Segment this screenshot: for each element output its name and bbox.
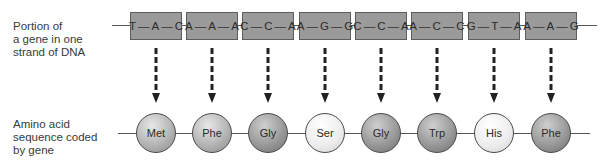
amino-acid-label: Met: [147, 127, 165, 139]
amino-acid-label: Phe: [541, 127, 561, 139]
bond-dash: —: [386, 20, 400, 32]
bond-dash: —: [273, 20, 287, 32]
nucleotide-base: G: [466, 20, 477, 32]
dashed-down-arrow-icon: [152, 48, 160, 104]
nucleotide-base: A: [513, 20, 523, 32]
bond-dash: —: [330, 20, 344, 32]
nucleotide-base: A: [184, 20, 194, 32]
nucleotide-base: A: [546, 20, 556, 32]
codon-box: A—A—G: [525, 12, 577, 40]
dna-label-line-1: Portion of: [13, 20, 123, 33]
amino-label-line-3: by gene: [13, 144, 123, 157]
bond-dash: —: [137, 20, 151, 32]
codon-box: T—A—C: [130, 12, 182, 40]
bond-dash: —: [305, 20, 319, 32]
nucleotide-base: A: [408, 20, 418, 32]
nucleotide-base: C: [263, 20, 273, 32]
dna-label: Portion of a gene in one strand of DNA: [13, 20, 123, 59]
bond-dash: —: [477, 20, 491, 32]
amino-label-line-1: Amino acid: [13, 118, 123, 131]
amino-acid-label: Ser: [316, 127, 333, 139]
bond-dash: —: [363, 20, 377, 32]
bond-dash: —: [194, 20, 208, 32]
nucleotide-base: C: [376, 20, 386, 32]
bond-dash: —: [250, 20, 264, 32]
dashed-down-arrow-icon: [377, 48, 385, 104]
nucleotide-base: G: [319, 20, 330, 32]
nucleotide-base: A: [522, 20, 532, 32]
codon-box: C—C—A: [355, 12, 407, 40]
amino-acid-met: Met: [136, 113, 176, 153]
bond-dash: —: [160, 20, 174, 32]
dna-label-line-3: strand of DNA: [13, 46, 123, 59]
amino-acid-gly: Gly: [248, 113, 288, 153]
nucleotide-base: A: [151, 20, 161, 32]
codon-box: A—C—C: [411, 12, 463, 40]
dashed-down-arrow-icon: [264, 48, 272, 104]
codon-box: A—A—A: [186, 12, 238, 40]
amino-acid-trp: Trp: [417, 113, 457, 153]
dashed-down-arrow-icon: [433, 48, 441, 104]
dashed-down-arrow-icon: [321, 48, 329, 104]
nucleotide-base: C: [352, 20, 362, 32]
codon-box: C—C—A: [242, 12, 294, 40]
nucleotide-base: C: [432, 20, 442, 32]
nucleotide-base: C: [239, 20, 249, 32]
nucleotide-base: A: [296, 20, 306, 32]
bond-dash: —: [217, 20, 231, 32]
amino-acid-label: His: [486, 127, 502, 139]
amino-acid-gly: Gly: [361, 113, 401, 153]
amino-acid-his: His: [474, 113, 514, 153]
nucleotide-base: C: [455, 20, 465, 32]
nucleotide-base: T: [128, 20, 137, 32]
nucleotide-base: A: [207, 20, 217, 32]
codon-box: A—G—G: [299, 12, 351, 40]
amino-acid-label: Gly: [260, 127, 277, 139]
amino-acid-label: Gly: [373, 127, 390, 139]
nucleotide-base: T: [490, 20, 499, 32]
amino-acid-ser: Ser: [305, 113, 345, 153]
dna-label-line-2: a gene in one: [13, 33, 123, 46]
bond-dash: —: [555, 20, 569, 32]
bond-dash: —: [532, 20, 546, 32]
amino-acid-label: Phe: [202, 127, 222, 139]
protein-chain-line: [118, 133, 590, 134]
dashed-down-arrow-icon: [490, 48, 498, 104]
amino-acid-label: Amino acid sequence coded by gene: [13, 118, 123, 157]
dashed-down-arrow-icon: [547, 48, 555, 104]
nucleotide-base: C: [174, 20, 184, 32]
bond-dash: —: [499, 20, 513, 32]
nucleotide-base: G: [569, 20, 580, 32]
amino-acid-phe: Phe: [192, 113, 232, 153]
amino-acid-phe: Phe: [531, 113, 571, 153]
amino-acid-label: Trp: [429, 127, 445, 139]
bond-dash: —: [418, 20, 432, 32]
bond-dash: —: [442, 20, 456, 32]
dashed-down-arrow-icon: [208, 48, 216, 104]
amino-label-line-2: sequence coded: [13, 131, 123, 144]
codon-box: G—T—A: [468, 12, 520, 40]
